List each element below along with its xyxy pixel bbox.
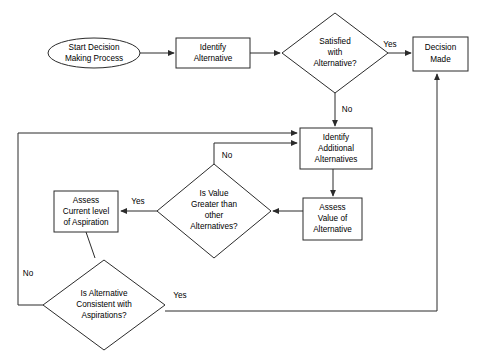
node-layer: Start Decision Making Process Identify A… bbox=[43, 13, 468, 350]
assess-value-label-line-2: Value of bbox=[318, 214, 348, 223]
node-is-alternative-consistent-with-aspirations[interactable]: Is Alternative Consistent with Aspiratio… bbox=[43, 260, 165, 350]
is-consistent-label-line-3: Aspirations? bbox=[81, 311, 127, 320]
node-satisfied-with-alternative[interactable]: Satisfied with Alternative? bbox=[282, 13, 388, 93]
satisfied-label-line-3: Alternative? bbox=[313, 59, 357, 68]
start-label-line-1: Start Decision bbox=[69, 43, 120, 52]
edge-aspiration-to-is-alternative-consistent bbox=[86, 232, 95, 258]
node-identify-additional-alternatives[interactable]: Identify Additional Alternatives bbox=[300, 128, 372, 169]
identify-alternative-label-line-1: Identify bbox=[200, 43, 227, 52]
node-start-decision-making-process[interactable]: Start Decision Making Process bbox=[48, 38, 140, 68]
assess-value-label-line-1: Assess bbox=[319, 203, 345, 212]
edge-label-no-satisfied: No bbox=[342, 105, 353, 114]
edge-label-yes-satisfied: Yes bbox=[383, 40, 396, 49]
is-consistent-label-line-1: Is Alternative bbox=[81, 289, 128, 298]
decision-made-label-line-2: Made bbox=[430, 55, 451, 64]
is-value-greater-label-line-2: Greater than bbox=[191, 200, 237, 209]
node-is-value-greater-than-other-alternatives[interactable]: Is Value Greater than other Alternatives… bbox=[157, 164, 271, 258]
node-assess-value-of-alternative[interactable]: Assess Value of Alternative bbox=[303, 198, 362, 240]
identify-additional-label-line-2: Additional bbox=[318, 144, 354, 153]
identify-additional-label-line-1: Identify bbox=[323, 133, 350, 142]
start-label-line-2: Making Process bbox=[65, 54, 123, 63]
is-value-greater-label-line-4: Alternatives? bbox=[190, 222, 238, 231]
flowchart-canvas: Start Decision Making Process Identify A… bbox=[0, 0, 480, 354]
node-decision-made[interactable]: Decision Made bbox=[413, 37, 468, 71]
satisfied-label-line-2: with bbox=[327, 48, 343, 57]
edge-label-yes-is-alternative-consistent: Yes bbox=[173, 291, 186, 300]
edge-label-yes-is-value-greater: Yes bbox=[131, 197, 144, 206]
node-assess-current-level-of-aspiration[interactable]: Assess Current level of Aspiration bbox=[54, 191, 118, 232]
edge-label-no-is-value-greater: No bbox=[222, 151, 233, 160]
flowchart-svg: Start Decision Making Process Identify A… bbox=[0, 0, 480, 354]
identify-alternative-label-line-2: Alternative bbox=[194, 54, 233, 63]
is-consistent-label-line-2: Consistent with bbox=[76, 300, 132, 309]
identify-additional-label-line-3: Alternatives bbox=[315, 155, 358, 164]
is-value-greater-label-line-3: other bbox=[205, 211, 224, 220]
assess-value-label-line-3: Alternative bbox=[313, 225, 352, 234]
is-value-greater-label-line-1: Is Value bbox=[200, 189, 229, 198]
edge-label-no-is-alternative-consistent: No bbox=[23, 269, 34, 278]
assess-aspiration-label-line-3: of Aspiration bbox=[63, 218, 109, 227]
decision-made-label-line-1: Decision bbox=[425, 43, 457, 52]
decision-made-rect-shape bbox=[413, 37, 468, 71]
satisfied-label-line-1: Satisfied bbox=[319, 37, 351, 46]
node-identify-alternative[interactable]: Identify Alternative bbox=[176, 38, 250, 68]
assess-aspiration-label-line-2: Current level bbox=[63, 207, 110, 216]
assess-aspiration-label-line-1: Assess bbox=[73, 196, 99, 205]
